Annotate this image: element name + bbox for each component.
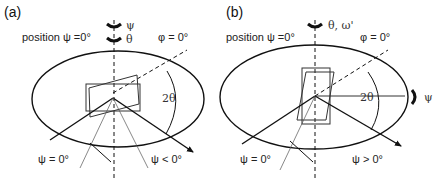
goniometer-circle — [32, 51, 204, 147]
panel-a-2theta-label: 2θ — [162, 92, 176, 105]
diffracted-beam — [315, 96, 401, 146]
panel-b-2theta-label: 2θ — [360, 91, 374, 104]
panel-a-psi-rotation-label: ψ — [126, 19, 135, 32]
psi-angle-indicator — [290, 141, 313, 162]
panel-b-psi-rotation-label: ψ — [424, 91, 433, 104]
rotation-arrow-icon — [107, 24, 121, 27]
panel-a-position-label: position ψ =0° — [22, 31, 91, 43]
diffraction-geometry-diagram: (a) position ψ =0° ψ θ φ = 0° 2θ ψ = 0° … — [0, 0, 444, 182]
diffracted-beam — [113, 98, 193, 152]
panel-b: (b) position ψ =0° θ, ω' φ = 0° 2θ ψ ψ =… — [220, 4, 433, 180]
rotation-arrow-icon — [308, 24, 322, 27]
panel-a-theta-rotation-label: θ — [126, 33, 133, 46]
sample-holder — [86, 84, 140, 111]
panel-b-label: (b) — [226, 4, 243, 20]
rotation-arrow-icon — [107, 38, 121, 41]
panel-b-psi-positive-label: ψ > 0° — [352, 153, 383, 165]
panel-b-psi-zero-label: ψ = 0° — [240, 153, 271, 165]
panel-b-theta-omega-label: θ, ω' — [328, 19, 354, 32]
incident-beam — [50, 98, 113, 140]
panel-a-label: (a) — [4, 4, 21, 20]
panel-a-psi-zero-label: ψ = 0° — [38, 153, 69, 165]
panel-a-psi-negative-label: ψ < 0° — [151, 153, 182, 165]
panel-b-position-label: position ψ =0° — [226, 31, 295, 43]
phi-reference-line — [113, 50, 187, 93]
panel-a-phi-label: φ = 0° — [158, 31, 188, 43]
panel-b-phi-label: φ = 0° — [360, 31, 390, 43]
side-rotation-arrow-icon — [412, 90, 415, 104]
panel-a: (a) position ψ =0° ψ θ φ = 0° 2θ ψ = 0° … — [4, 4, 204, 180]
psi-tilted-normal — [113, 98, 148, 168]
